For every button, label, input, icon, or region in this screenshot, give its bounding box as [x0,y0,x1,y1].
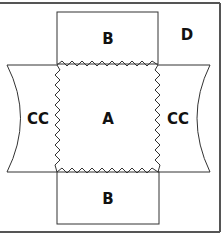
label-cc-left: CC [27,110,49,128]
pattern-diagram: B D A CC CC B [0,0,222,235]
label-b-bottom: B [102,190,113,208]
label-a: A [102,110,114,128]
label-b-top: B [102,30,113,48]
label-d: D [181,26,193,44]
label-cc-right: CC [167,110,189,128]
